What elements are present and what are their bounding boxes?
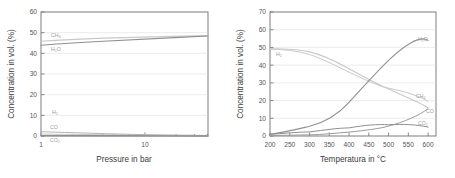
y-tick-label: 10 bbox=[259, 115, 267, 122]
y-axis-title-left: Concentration in vol. (%) bbox=[7, 29, 16, 119]
x-tick-label: 10 bbox=[141, 141, 149, 148]
series-label-ch4: CH₄ bbox=[51, 32, 61, 38]
x-tick-label: 1 bbox=[39, 141, 43, 148]
x-tick-label: 500 bbox=[383, 141, 394, 148]
y-tick-label: 20 bbox=[259, 97, 267, 104]
y-axis-title-right: Concentration in vol. (%) bbox=[236, 29, 245, 119]
y-tick-label: 30 bbox=[259, 79, 267, 86]
series-label-h2o: H₂O bbox=[418, 36, 428, 42]
series-label-ch4: CH₄ bbox=[416, 93, 426, 99]
chart-temperature-svg: 0 10 20 30 40 50 60 70 200 250 bbox=[228, 0, 455, 178]
series-label-co2: CO₂ bbox=[418, 120, 428, 126]
x-tick-label: 400 bbox=[344, 141, 355, 148]
series-label-h2: H₂ bbox=[276, 51, 282, 57]
figure-container: 0 10 20 30 40 50 60 bbox=[0, 0, 455, 178]
y-tick-label: 70 bbox=[259, 8, 267, 15]
y-tick-label: 60 bbox=[259, 26, 267, 33]
y-tick-label: 40 bbox=[30, 50, 38, 57]
series-label-h2: H₂ bbox=[52, 109, 58, 115]
x-tick-label: 300 bbox=[304, 141, 315, 148]
series-label-h2o: H₂O bbox=[51, 46, 61, 52]
series-label-co2: CO₂ bbox=[50, 137, 60, 143]
series-label-co: CO bbox=[426, 108, 434, 114]
y-tick-label: 20 bbox=[30, 91, 38, 98]
y-tick-label: 50 bbox=[30, 29, 38, 36]
x-tick-label: 350 bbox=[324, 141, 335, 148]
series-label-co: CO bbox=[50, 124, 58, 130]
y-tick-label: 30 bbox=[30, 70, 38, 77]
x-tick-label: 200 bbox=[264, 141, 275, 148]
x-axis-title-pressure: Pressure in bar bbox=[96, 155, 152, 164]
chart-temperature-panel: 0 10 20 30 40 50 60 70 200 250 bbox=[228, 0, 455, 178]
x-tick-label: 250 bbox=[284, 141, 295, 148]
x-tick-label: 600 bbox=[423, 141, 434, 148]
chart-pressure-svg: 0 10 20 30 40 50 60 bbox=[0, 0, 228, 178]
y-tick-label: 50 bbox=[259, 44, 267, 51]
y-tick-label: 0 bbox=[33, 132, 37, 139]
y-tick-label: 10 bbox=[30, 112, 38, 119]
x-tick-label: 550 bbox=[403, 141, 414, 148]
y-tick-label: 40 bbox=[259, 62, 267, 69]
chart-pressure-panel: 0 10 20 30 40 50 60 bbox=[0, 0, 228, 178]
y-tick-label: 0 bbox=[262, 132, 266, 139]
x-tick-label: 450 bbox=[363, 141, 374, 148]
y-tick-label: 60 bbox=[30, 8, 38, 15]
x-axis-title-temperature: Temperatura in °C bbox=[320, 155, 386, 164]
